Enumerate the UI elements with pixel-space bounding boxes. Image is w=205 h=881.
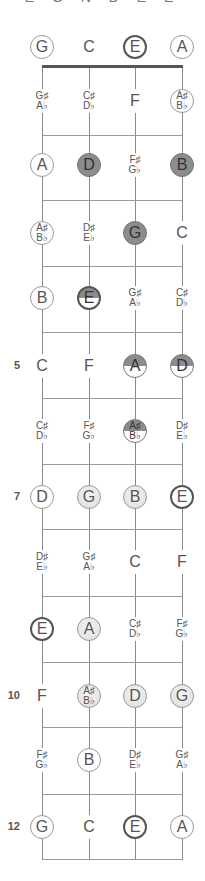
- flat-name: E♭: [36, 562, 48, 572]
- note-marker[interactable]: B: [123, 485, 147, 509]
- note-marker[interactable]: G: [123, 221, 147, 245]
- fret-line-12: [42, 859, 183, 860]
- flat-name: G♭: [36, 760, 49, 770]
- note-marker[interactable]: F: [77, 354, 101, 378]
- flat-name: E♭: [129, 760, 141, 770]
- note-name: B: [37, 290, 48, 306]
- note-name: C: [83, 819, 95, 835]
- enharmonic-label: G♯A♭: [83, 552, 96, 572]
- note-marker[interactable]: D♯E♭: [170, 419, 194, 443]
- fret-line-7: [42, 529, 183, 530]
- note-marker[interactable]: A: [30, 153, 54, 177]
- note-marker[interactable]: C♯D♭: [30, 419, 54, 443]
- note-marker[interactable]: C: [30, 354, 54, 378]
- fret-line-8: [42, 596, 183, 597]
- note-marker[interactable]: D: [170, 354, 194, 378]
- note-marker[interactable]: A: [170, 815, 194, 839]
- enharmonic-label: F♯G♭: [36, 750, 49, 770]
- note-name: G: [36, 819, 48, 835]
- flat-name: A♭: [176, 760, 188, 770]
- note-marker[interactable]: A♯B♭: [123, 419, 147, 443]
- flat-name: B♭: [176, 101, 188, 111]
- note-marker[interactable]: F: [123, 89, 147, 113]
- flat-name: A♭: [83, 562, 95, 572]
- fret-line-3: [42, 266, 183, 267]
- enharmonic-label: D♯E♭: [129, 750, 141, 770]
- note-marker[interactable]: E: [77, 286, 101, 310]
- note-marker[interactable]: C♯D♭: [170, 286, 194, 310]
- note-marker[interactable]: F♯G♭: [77, 419, 101, 443]
- flat-name: G♭: [83, 431, 96, 441]
- nut: [42, 65, 183, 68]
- note-marker[interactable]: A♯B♭: [170, 89, 194, 113]
- fret-line-10: [42, 727, 183, 728]
- note-name: C: [36, 358, 48, 374]
- flat-name: A♭: [129, 298, 141, 308]
- note-marker[interactable]: D♯E♭: [123, 748, 147, 772]
- enharmonic-label: A♯B♭: [129, 421, 141, 441]
- note-marker[interactable]: C: [123, 550, 147, 574]
- note-marker[interactable]: C: [77, 35, 101, 59]
- enharmonic-label: C♯D♭: [36, 421, 48, 441]
- enharmonic-label: F♯G♭: [129, 155, 142, 175]
- note-marker[interactable]: G: [170, 684, 194, 708]
- note-marker[interactable]: F: [170, 550, 194, 574]
- note-marker[interactable]: D: [123, 684, 147, 708]
- flat-name: G♭: [176, 629, 189, 639]
- note-marker[interactable]: G♯A♭: [170, 748, 194, 772]
- note-marker[interactable]: B: [30, 286, 54, 310]
- note-marker[interactable]: A♯B♭: [77, 684, 101, 708]
- note-name: C: [129, 554, 141, 570]
- note-marker[interactable]: E: [123, 35, 147, 59]
- note-marker[interactable]: F: [30, 684, 54, 708]
- note-marker[interactable]: E: [30, 617, 54, 641]
- note-name: F: [130, 93, 140, 109]
- note-name: D: [83, 157, 95, 173]
- string-line-2: [89, 66, 90, 860]
- flat-name: D♭: [83, 101, 95, 111]
- note-name: E: [130, 819, 141, 835]
- flat-name: G♭: [129, 165, 142, 175]
- note-name: B: [84, 752, 95, 768]
- note-marker[interactable]: F♯G♭: [170, 617, 194, 641]
- note-marker[interactable]: G: [30, 815, 54, 839]
- fret-line-9: [42, 662, 183, 663]
- note-name: A: [177, 819, 188, 835]
- note-marker[interactable]: D: [77, 153, 101, 177]
- note-marker[interactable]: G♯A♭: [77, 550, 101, 574]
- note-marker[interactable]: A♯B♭: [30, 221, 54, 245]
- note-name: F: [177, 554, 187, 570]
- fret-line-11: [42, 794, 183, 795]
- note-marker[interactable]: C♯D♭: [123, 617, 147, 641]
- note-name: A: [84, 621, 95, 637]
- note-marker[interactable]: C: [77, 815, 101, 839]
- note-name: E: [177, 489, 188, 505]
- note-marker[interactable]: A: [170, 35, 194, 59]
- fret-number-label: 10: [4, 689, 20, 701]
- note-marker[interactable]: D♯E♭: [77, 221, 101, 245]
- note-marker[interactable]: A: [123, 354, 147, 378]
- note-marker[interactable]: C♯D♭: [77, 89, 101, 113]
- note-marker[interactable]: B: [77, 748, 101, 772]
- note-marker[interactable]: G♯A♭: [30, 89, 54, 113]
- note-marker[interactable]: G♯A♭: [123, 286, 147, 310]
- note-marker[interactable]: A: [77, 617, 101, 641]
- enharmonic-label: C♯D♭: [176, 288, 188, 308]
- note-marker[interactable]: D: [30, 485, 54, 509]
- note-marker[interactable]: F♯G♭: [123, 153, 147, 177]
- note-marker[interactable]: B: [170, 153, 194, 177]
- note-marker[interactable]: E: [123, 815, 147, 839]
- note-marker[interactable]: F♯G♭: [30, 748, 54, 772]
- note-marker[interactable]: E: [170, 485, 194, 509]
- note-marker[interactable]: G: [30, 35, 54, 59]
- note-marker[interactable]: C: [170, 221, 194, 245]
- fret-line-4: [42, 332, 183, 333]
- string-line-1: [42, 66, 43, 860]
- enharmonic-label: A♯B♭: [36, 223, 48, 243]
- fret-number-label: 12: [4, 820, 20, 832]
- note-marker[interactable]: G: [77, 485, 101, 509]
- note-marker[interactable]: D♯E♭: [30, 550, 54, 574]
- enharmonic-label: G♯A♭: [129, 288, 142, 308]
- flat-name: E♭: [83, 233, 95, 243]
- note-name: E: [84, 290, 95, 306]
